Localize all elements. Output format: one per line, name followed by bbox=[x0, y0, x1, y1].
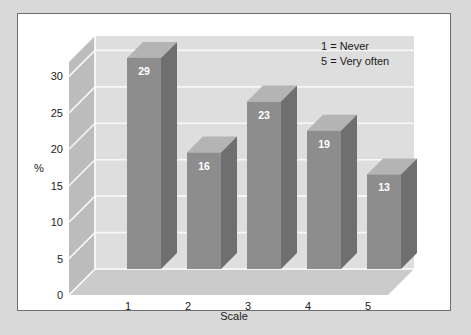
bar-side-2 bbox=[221, 137, 237, 270]
y-tick-0: 0 bbox=[57, 289, 63, 301]
bar-front-3 bbox=[247, 102, 281, 269]
left-wall bbox=[69, 36, 95, 295]
bar-chart-3d: 29 16 23 19 13 bbox=[17, 13, 451, 311]
bar-group-4[interactable]: 19 bbox=[307, 115, 357, 269]
bar-side-1 bbox=[161, 42, 177, 269]
bar-value-label-5: 13 bbox=[378, 181, 390, 193]
y-tick-5: 5 bbox=[57, 253, 63, 265]
y-axis-title: % bbox=[34, 162, 44, 174]
bar-group-5[interactable]: 13 bbox=[367, 158, 417, 269]
y-axis-tick-labels: 0 5 10 15 20 25 30 bbox=[51, 70, 63, 301]
bar-value-label-2: 16 bbox=[198, 160, 210, 172]
y-tick-15: 15 bbox=[51, 180, 63, 192]
figure-page: 29 16 23 19 13 bbox=[0, 0, 471, 335]
bar-side-4 bbox=[341, 115, 357, 269]
legend-entry-1: 1 = Never bbox=[321, 40, 369, 52]
floor bbox=[69, 269, 414, 295]
bar-group-1[interactable]: 29 bbox=[127, 42, 177, 269]
bar-side-5 bbox=[401, 158, 417, 269]
y-tick-30: 30 bbox=[51, 70, 63, 82]
y-tick-10: 10 bbox=[51, 216, 63, 228]
x-axis-title: Scale bbox=[220, 310, 248, 322]
bar-front-4 bbox=[307, 131, 341, 269]
bar-front-1 bbox=[127, 58, 161, 269]
bar-value-label-4: 19 bbox=[318, 138, 330, 150]
y-tick-25: 25 bbox=[51, 107, 63, 119]
bar-value-label-3: 23 bbox=[258, 109, 270, 121]
bar-group-2[interactable]: 16 bbox=[187, 137, 237, 270]
x-axis-title-wrap: Scale bbox=[17, 306, 451, 324]
bar-side-3 bbox=[281, 86, 297, 269]
bar-value-label-1: 29 bbox=[138, 65, 150, 77]
bar-group-3[interactable]: 23 bbox=[247, 86, 297, 269]
y-tick-20: 20 bbox=[51, 143, 63, 155]
legend-entry-2: 5 = Very often bbox=[321, 55, 389, 67]
